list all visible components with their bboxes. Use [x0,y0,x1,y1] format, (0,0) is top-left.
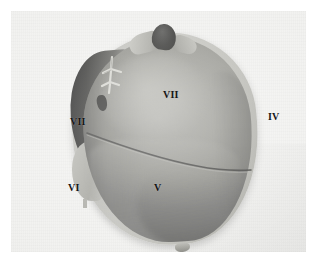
marker-tick [83,199,87,208]
specimen-stage [11,11,306,252]
label-vii-outer: VII [70,117,86,127]
label-vii-inner: VII [163,90,179,100]
specimen-body-inferior-shading [135,151,257,246]
label-v-inner: V [154,183,161,193]
photograph-plate: VII VI IV VII V [11,11,306,252]
label-iv-outer: IV [268,112,280,122]
screenshot-root: VII VI IV VII V [0,0,319,267]
label-vi-outer: VI [68,183,80,193]
vessel-stub-inferior [175,242,191,252]
